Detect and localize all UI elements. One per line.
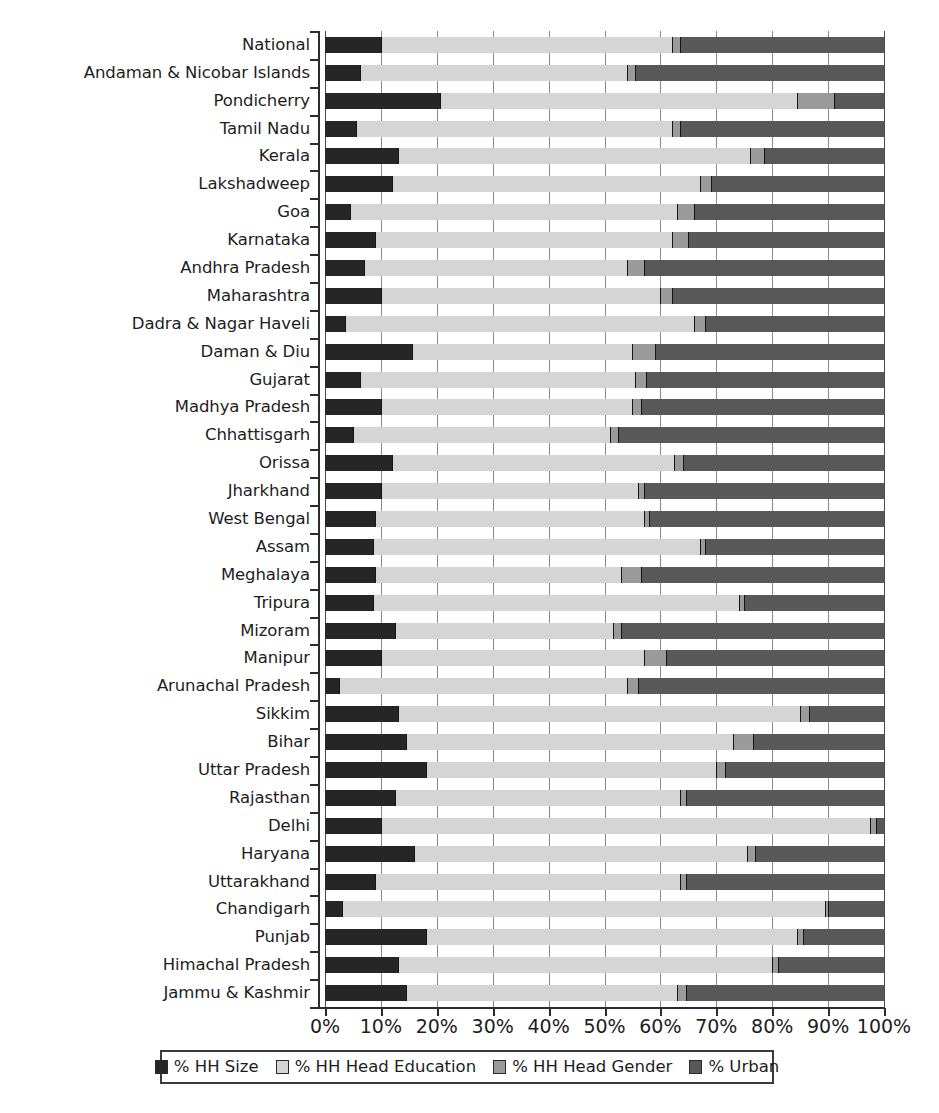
bar-segment [325,455,392,471]
bar-row [325,344,884,360]
category-label: Haryana [0,846,310,863]
bar-row [325,511,884,527]
bar-segment [325,344,412,360]
y-axis-line [318,31,320,1008]
bar-row [325,372,884,388]
bar-row [325,148,884,164]
x-axis-tick-label: 30% [463,1017,523,1036]
y-axis-tick [310,840,319,842]
legend-item[interactable]: % HH Size [155,1059,259,1076]
bar-row [325,427,884,443]
bar-segment [325,678,339,694]
x-axis-tick-label: 70% [686,1017,746,1036]
bar-row [325,650,884,666]
bar-row [325,121,884,137]
bar-segment [325,121,356,137]
bar-row [325,595,884,611]
y-axis-tick [310,143,319,145]
bar-row [325,37,884,53]
bar-segment [325,204,350,220]
legend-item[interactable]: % Urban [689,1059,779,1076]
bar-segment [412,344,633,360]
bar-segment [325,483,381,499]
y-axis-tick [310,923,319,925]
bar-segment [325,372,360,388]
bar-segment [325,65,360,81]
bar-row [325,93,884,109]
bar-row [325,706,884,722]
y-axis-tick [310,868,319,870]
bar-segment [325,288,381,304]
square-swatch-icon [276,1060,289,1074]
bar-row [325,316,884,332]
x-axis-tick-label: 60% [630,1017,690,1036]
bar-segment [644,650,666,666]
bar-segment [747,846,755,862]
bar-row [325,204,884,220]
bar-segment [395,623,613,639]
plot-area [325,31,884,1007]
legend-item[interactable]: % HH Head Gender [493,1059,672,1076]
legend-label: % HH Head Education [295,1059,477,1076]
bar-segment [677,985,685,1001]
bar-segment [325,567,375,583]
x-axis-line [318,1007,885,1009]
bar-segment [325,706,398,722]
bar-segment [398,148,750,164]
category-label: Mizoram [0,623,310,640]
bar-segment [753,734,884,750]
x-axis-tick-label: 20% [407,1017,467,1036]
category-label: Assam [0,539,310,556]
bar-segment [635,65,884,81]
bar-row [325,762,884,778]
y-axis-tick [310,59,319,61]
bar-segment [360,372,636,388]
category-label: Chandigarh [0,901,310,918]
bar-segment [392,176,699,192]
y-axis-tick [310,310,319,312]
bar-segment [360,65,627,81]
category-label: Andaman & Nicobar Islands [0,65,310,82]
y-axis-tick [310,31,319,33]
category-label: Sikkim [0,706,310,723]
bar-segment [356,121,672,137]
bar-segment [803,929,884,945]
bar-segment [716,762,724,778]
bar-segment [364,260,627,276]
bar-segment [375,232,671,248]
category-label: Tripura [0,595,310,612]
bar-row [325,790,884,806]
y-axis-tick [310,533,319,535]
square-swatch-icon [493,1060,506,1074]
bar-segment [649,511,884,527]
bar-row [325,623,884,639]
bar-segment [375,567,621,583]
bar-segment [353,427,610,443]
category-label: Rajasthan [0,790,310,807]
bar-segment [325,901,342,917]
y-axis-tick [310,87,319,89]
category-label: National [0,37,310,54]
category-label: Andhra Pradesh [0,260,310,277]
x-axis-tick-label: 90% [798,1017,858,1036]
bar-segment [381,288,661,304]
y-axis-tick [310,505,319,507]
bar-row [325,846,884,862]
bar-segment [381,650,644,666]
bar-segment [666,650,884,666]
bar-segment [809,706,884,722]
y-axis-tick [310,338,319,340]
bar-segment [375,874,680,890]
square-swatch-icon [689,1060,702,1074]
category-label: Punjab [0,929,310,946]
category-label: West Bengal [0,511,310,528]
y-axis-tick [310,617,319,619]
bar-row [325,567,884,583]
category-label: Goa [0,204,310,221]
legend-item[interactable]: % HH Head Education [276,1059,477,1076]
bar-row [325,818,884,834]
category-label: Meghalaya [0,567,310,584]
bar-segment [876,818,884,834]
category-label: Maharashtra [0,288,310,305]
bar-segment [683,455,884,471]
